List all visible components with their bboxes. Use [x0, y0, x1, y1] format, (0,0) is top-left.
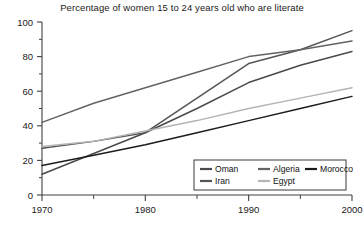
- chart-legend: OmanAlgeriaMoroccoIranEgypt: [194, 160, 353, 190]
- y-tick-label: 40: [22, 120, 33, 131]
- y-tick-label: 80: [22, 51, 33, 62]
- y-tick-label: 0: [28, 190, 33, 201]
- series-line-algeria: [42, 41, 352, 122]
- x-tick-label: 1980: [135, 204, 156, 215]
- chart-figure: Percentage of women 15 to 24 years old w…: [0, 0, 364, 231]
- x-axis-tick-labels: 1970198019902000: [31, 204, 362, 215]
- x-tick-label: 2000: [341, 204, 362, 215]
- legend-label-oman: Oman: [215, 164, 239, 174]
- legend-label-iran: Iran: [215, 176, 230, 186]
- data-series-lines: [42, 31, 352, 175]
- line-chart-plot: 020406080100 1970198019902000 OmanAlgeri…: [0, 0, 364, 231]
- y-tick-label: 100: [17, 17, 33, 28]
- y-axis-tick-labels: 020406080100: [17, 17, 33, 201]
- y-axis-ticks: [37, 22, 42, 195]
- y-tick-label: 60: [22, 86, 33, 97]
- y-tick-label: 20: [22, 155, 33, 166]
- legend-label-algeria: Algeria: [273, 164, 300, 174]
- x-tick-label: 1970: [31, 204, 52, 215]
- series-line-egypt: [42, 88, 352, 147]
- legend-label-morocco: Morocco: [320, 164, 353, 174]
- x-axis-ticks: [42, 195, 352, 201]
- x-tick-label: 1990: [238, 204, 259, 215]
- legend-label-egypt: Egypt: [273, 176, 296, 186]
